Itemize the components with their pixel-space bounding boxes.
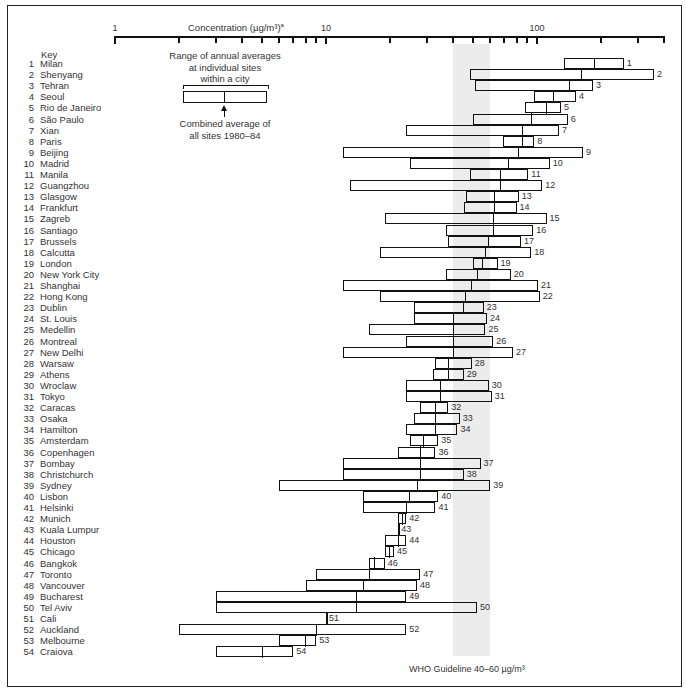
city-range-bar <box>306 580 417 591</box>
x-axis-major-tick <box>325 36 327 44</box>
city-range-bar <box>369 324 485 335</box>
key-item-number: 21 <box>14 280 34 291</box>
key-item-city: Houston <box>40 535 75 546</box>
key-item-city: Calcutta <box>40 247 75 258</box>
city-average-marker <box>389 546 390 558</box>
city-average-marker <box>594 58 595 70</box>
key-item: 37Bombay <box>14 458 75 469</box>
key-item-city: Chicago <box>40 546 75 557</box>
city-bar-number: 36 <box>438 447 448 458</box>
city-bar-number: 13 <box>522 191 532 202</box>
key-item-city: Wroclaw <box>40 380 76 391</box>
city-range-bar <box>385 213 547 224</box>
city-average-marker <box>363 579 364 591</box>
city-bar-number: 26 <box>496 336 506 347</box>
key-item: 30Wroclaw <box>14 380 76 391</box>
x-axis-minor-tick <box>305 36 307 43</box>
key-item-number: 16 <box>14 225 34 236</box>
city-average-marker <box>448 368 449 380</box>
city-bar-number: 46 <box>388 558 398 569</box>
key-item-number: 52 <box>14 624 34 635</box>
city-bar-number: 27 <box>516 347 526 358</box>
city-range-bar <box>406 391 491 402</box>
city-average-marker <box>440 391 441 403</box>
key-item-city: Guangzhou <box>40 180 89 191</box>
city-bar-number: 47 <box>423 569 433 580</box>
key-item-city: Toronto <box>40 569 72 580</box>
key-item-number: 36 <box>14 447 34 458</box>
key-item: 16Santiago <box>14 225 78 236</box>
city-bar-number: 40 <box>441 491 451 502</box>
city-range-bar <box>363 502 435 513</box>
city-bar-number: 50 <box>480 602 490 613</box>
legend-range-bracket <box>183 85 269 89</box>
x-axis-minor-tick <box>389 36 391 43</box>
city-average-marker <box>356 601 357 613</box>
key-item-city: Dublin <box>40 302 67 313</box>
city-bar-number: 45 <box>397 546 407 557</box>
city-bar-number: 28 <box>475 358 485 369</box>
key-item-number: 8 <box>14 136 34 147</box>
city-bar-number: 10 <box>553 158 563 169</box>
key-item-number: 11 <box>14 169 34 180</box>
key-item: 54Craiova <box>14 646 73 657</box>
key-item-number: 49 <box>14 591 34 602</box>
city-range-bar <box>380 291 540 302</box>
city-average-marker <box>508 157 509 169</box>
key-item-city: Medellin <box>40 324 75 335</box>
key-item: 50Tel Aviv <box>14 602 72 613</box>
city-bar-number: 38 <box>467 469 477 480</box>
key-item: 26Montreal <box>14 336 77 347</box>
city-bar-number: 9 <box>586 147 591 158</box>
city-range-bar <box>343 280 538 291</box>
city-range-bar <box>398 513 406 524</box>
city-bar-number: 1 <box>627 58 632 69</box>
x-axis-minor-tick <box>472 36 474 43</box>
key-item-number: 28 <box>14 358 34 369</box>
city-range-bar <box>343 147 583 158</box>
key-item: 45Chicago <box>14 546 75 557</box>
key-item-city: Xian <box>40 125 59 136</box>
key-item-city: St. Louis <box>40 313 77 324</box>
key-item-city: Glasgow <box>40 191 77 202</box>
city-average-marker <box>409 490 410 502</box>
city-range-bar <box>363 491 438 502</box>
key-item: 5Rio de Janeiro <box>14 102 101 113</box>
key-item: 20New York City <box>14 269 99 280</box>
key-item: 34Hamilton <box>14 424 78 435</box>
legend-range-line-3: within a city <box>160 73 290 85</box>
x-axis-minor-tick <box>600 36 602 43</box>
key-item-number: 12 <box>14 180 34 191</box>
key-item: 3Tehran <box>14 80 69 91</box>
city-average-marker <box>465 291 466 303</box>
city-bar-number: 4 <box>579 91 584 102</box>
key-item-city: Kuala Lumpur <box>40 524 99 535</box>
key-item-number: 39 <box>14 480 34 491</box>
x-axis-tick-label: 1 <box>112 23 117 33</box>
city-range-bar <box>385 535 406 546</box>
legend-range-line-1: Range of annual averages <box>160 50 290 62</box>
city-average-marker <box>500 180 501 192</box>
key-item: 25Medellin <box>14 324 75 335</box>
who-guideline-label: WHO Guideline 40–60 µg/m³ <box>409 664 525 674</box>
city-bar-number: 22 <box>543 291 553 302</box>
city-average-marker <box>262 646 263 658</box>
city-range-bar <box>316 569 420 580</box>
city-bar-number: 29 <box>467 369 477 380</box>
city-bar-number: 48 <box>420 580 430 591</box>
key-item-number: 48 <box>14 580 34 591</box>
key-item-number: 4 <box>14 91 34 102</box>
city-range-bar <box>343 469 464 480</box>
city-average-marker <box>402 513 403 525</box>
city-average-marker <box>471 280 472 292</box>
key-item-city: Brussels <box>40 236 76 247</box>
city-bar-number: 37 <box>484 458 494 469</box>
key-item: 22Hong Kong <box>14 291 88 302</box>
key-item-city: Vancouver <box>40 580 85 591</box>
city-average-marker <box>316 624 317 636</box>
city-range-bar <box>279 635 316 646</box>
city-range-bar <box>448 236 521 247</box>
x-axis-minor-tick <box>637 36 639 43</box>
city-average-marker <box>493 224 494 236</box>
key-item: 36Copenhagen <box>14 447 94 458</box>
